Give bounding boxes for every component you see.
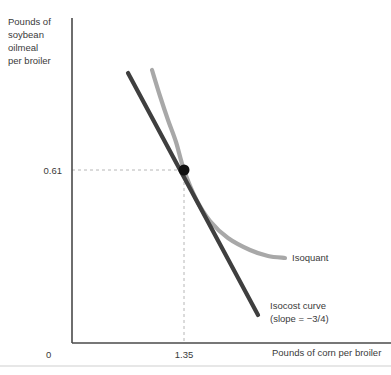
y-axis-title-line-2: soybean: [8, 29, 44, 40]
isoquant-isocost-chart: Pounds of soybean oilmeal per broiler 0.…: [0, 0, 391, 375]
x-axis-title: Pounds of corn per broiler: [272, 347, 381, 358]
isocost-series-label: Isocost curve: [270, 300, 326, 311]
y-tick-label-0.61: 0.61: [44, 165, 63, 176]
tangency-point-marker: [179, 165, 190, 176]
y-axis-title-line-1: Pounds of: [8, 16, 51, 27]
isoquant-series-label: Isoquant: [292, 252, 329, 263]
origin-label: 0: [46, 349, 51, 360]
y-axis-title-line-3: oilmeal: [8, 42, 38, 53]
chart-background: [0, 0, 391, 375]
isocost-series-slope-label: (slope = −3/4): [270, 313, 329, 324]
y-axis-title-line-4: per broiler: [8, 55, 51, 66]
x-tick-label-1.35: 1.35: [175, 349, 194, 360]
